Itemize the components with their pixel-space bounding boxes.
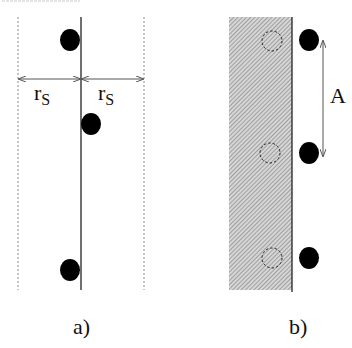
particle-dot <box>60 29 80 51</box>
panel-b-caption: b) <box>289 314 307 339</box>
particle-dot <box>299 29 319 51</box>
panel-a-caption: a) <box>73 314 90 339</box>
particle-dot <box>299 142 319 164</box>
left-radius-label: rS <box>34 80 50 108</box>
hatched-region <box>229 17 292 290</box>
panel-a: rS rS a) <box>18 17 144 339</box>
right-radius-label: rS <box>98 80 114 108</box>
particle-dot <box>299 247 319 269</box>
diagram-canvas: rS rS a) A b) <box>0 0 352 348</box>
particle-dot <box>60 259 80 281</box>
panel-b: A b) <box>229 17 346 339</box>
amplitude-label: A <box>330 83 346 108</box>
particle-dot <box>81 113 101 135</box>
